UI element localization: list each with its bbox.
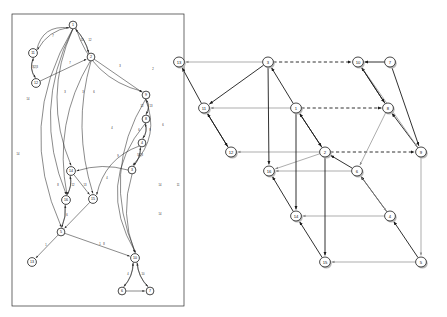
- right-node-11[interactable]: 11: [199, 103, 211, 115]
- right-node-16[interactable]: 16: [264, 166, 276, 178]
- left-node-10[interactable]: 10: [131, 254, 140, 263]
- left-node-label-2: 2: [90, 55, 92, 59]
- left-node-5[interactable]: 5: [57, 228, 65, 236]
- figure-root: 710123|2|3732121369645|2|394812131433614…: [0, 0, 447, 317]
- left-edge-label: 13: [84, 183, 87, 187]
- left-edge-label: 2: [152, 67, 154, 71]
- left-node-7[interactable]: 7: [146, 287, 154, 295]
- left-node-label-9: 9: [145, 93, 147, 97]
- right-node-label-12: 12: [229, 150, 234, 155]
- edge-14-to-15: [74, 174, 90, 194]
- left-graph-edges: [31, 27, 150, 291]
- left-node-1[interactable]: 1: [69, 21, 77, 29]
- edge-1-to-3: [271, 68, 293, 104]
- edge-3-to-16: [268, 67, 269, 164]
- edge-6-to-4: [360, 175, 386, 210]
- edge-8-to-6: [360, 113, 386, 165]
- edge-14-to-16: [272, 177, 293, 212]
- right-node-5[interactable]: 5: [416, 257, 428, 269]
- left-node-15[interactable]: 15: [89, 195, 98, 204]
- left-edge-label: 12: [141, 104, 144, 108]
- right-graph-nodes: 13310711181229166144155: [174, 57, 428, 269]
- right-node-10[interactable]: 10: [353, 57, 365, 69]
- left-node-label-16: 16: [64, 198, 68, 202]
- right-node-14[interactable]: 14: [291, 211, 303, 223]
- edge-3-to-11: [209, 65, 263, 104]
- left-node-11[interactable]: 11: [29, 49, 38, 58]
- left-edge-label: 14: [17, 152, 20, 156]
- edge-5-to-10: [65, 233, 130, 256]
- right-node-8[interactable]: 8: [383, 103, 395, 115]
- edge-5-to-16: [62, 206, 66, 229]
- left-node-8[interactable]: 8: [142, 115, 150, 123]
- left-node-label-8: 8: [145, 117, 147, 121]
- right-node-label-11: 11: [202, 106, 207, 111]
- left-edge-label: 6: [93, 90, 95, 94]
- left-edge-label: 14: [159, 183, 162, 187]
- right-node-12[interactable]: 12: [226, 147, 238, 159]
- left-node-4[interactable]: 4: [138, 139, 146, 147]
- left-edge-label: 11: [177, 183, 180, 187]
- right-node-7[interactable]: 7: [385, 57, 397, 69]
- left-node-label-12: 12: [34, 81, 38, 85]
- edge-2-to-16: [275, 154, 320, 169]
- edge-7-to-9: [392, 67, 419, 146]
- left-node-label-5: 5: [60, 230, 62, 234]
- left-edge-label: 4: [106, 176, 108, 180]
- edge-15-to-5: [65, 202, 90, 228]
- right-node-1[interactable]: 1: [291, 103, 303, 115]
- left-node-label-6: 6: [121, 289, 123, 293]
- edge-6-to-2: [331, 155, 353, 168]
- left-edge-label: 4: [127, 272, 129, 276]
- left-graph-edge-labels: 710123|2|3732121369645|2|394812131433614…: [17, 34, 180, 276]
- left-edge-label: 14: [159, 212, 162, 216]
- right-node-4[interactable]: 4: [385, 211, 397, 223]
- left-edge-label: 4: [111, 126, 113, 130]
- edge-2-to-9: [94, 59, 142, 92]
- left-node-12[interactable]: 12: [32, 79, 41, 88]
- left-edge-label: 10: [142, 272, 145, 276]
- left-edge-label: 12: [89, 38, 92, 42]
- left-edge-label: 3|2|3: [32, 65, 38, 69]
- left-graph-panel: 710123|2|3732121369645|2|394812131433614…: [12, 14, 184, 306]
- right-node-6[interactable]: 6: [352, 166, 364, 178]
- edge-11-to-13: [182, 68, 201, 103]
- left-edge-label: 3: [119, 64, 121, 68]
- left-node-label-1: 1: [72, 23, 74, 27]
- edge-10-to-8: [361, 67, 384, 103]
- left-node-label-7: 7: [149, 289, 151, 293]
- edge-5-to-4: [394, 221, 418, 257]
- edge-5-to-13: [36, 235, 58, 258]
- left-node-14[interactable]: 14: [67, 167, 76, 176]
- edge-1-to-14: [57, 29, 73, 166]
- left-edge-label: 9: [149, 128, 151, 132]
- left-node-6[interactable]: 6: [118, 287, 126, 295]
- left-node-label-11: 11: [31, 51, 35, 55]
- right-graph-panel: 13310711181229166144155: [174, 57, 428, 269]
- left-node-label-10: 10: [133, 256, 137, 260]
- left-node-label-4: 4: [141, 141, 143, 145]
- left-edge-label: 6: [162, 123, 164, 127]
- edge-16-to-14: [67, 177, 71, 196]
- edge-11-to-1: [37, 28, 69, 51]
- left-edge-label: 8: [103, 242, 105, 246]
- left-node-label-14: 14: [69, 169, 73, 173]
- left-node-16[interactable]: 16: [62, 196, 71, 205]
- edge-11-to-12: [207, 113, 228, 147]
- right-node-2[interactable]: 2: [320, 147, 332, 159]
- left-edge-label: 7: [69, 61, 71, 65]
- left-node-13[interactable]: 13: [28, 258, 37, 267]
- right-node-label-14: 14: [294, 214, 299, 219]
- left-node-9[interactable]: 9: [142, 91, 150, 99]
- right-node-9[interactable]: 9: [416, 147, 428, 159]
- left-edge-label: 12: [72, 183, 75, 187]
- left-node-2[interactable]: 2: [87, 53, 95, 61]
- left-edge-label: 14: [27, 97, 30, 101]
- left-node-label-3: 3: [131, 168, 133, 172]
- right-node-15[interactable]: 15: [320, 257, 332, 269]
- left-graph-frame: [12, 14, 184, 306]
- left-node-3[interactable]: 3: [128, 166, 136, 174]
- right-node-3[interactable]: 3: [263, 57, 275, 69]
- graph-canvas: 710123|2|3732121369645|2|394812131433614…: [0, 0, 447, 317]
- edge-2-to-15: [82, 61, 93, 194]
